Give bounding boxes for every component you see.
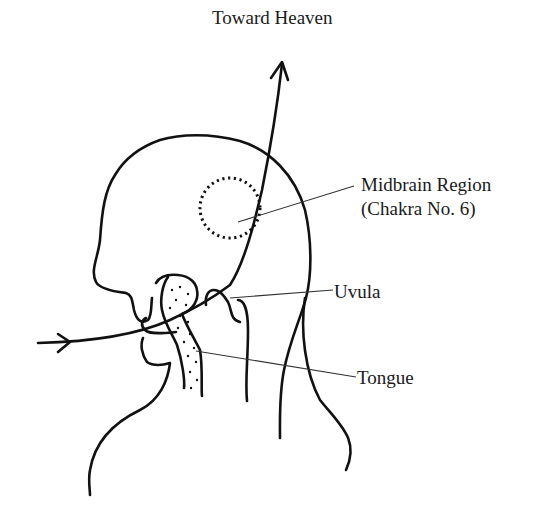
- jaw-outline: [89, 338, 170, 495]
- midbrain-label-line2: (Chakra No. 6): [361, 197, 476, 220]
- midbrain-label-line1: Midbrain Region: [361, 173, 491, 196]
- uvula-label: Uvula: [334, 280, 380, 303]
- uvula-outline: [206, 290, 240, 322]
- uvula-leader-line: [230, 290, 333, 298]
- head-illustration: [0, 0, 558, 529]
- neck-back-outline: [303, 298, 351, 470]
- throat-back-wall: [238, 300, 248, 401]
- midbrain-leader-line: [238, 186, 354, 222]
- diagram-canvas: Toward Heaven Midbrain Region (Chakra No…: [0, 0, 558, 529]
- tongue-label: Tongue: [357, 366, 414, 389]
- tongue-leader-line: [196, 351, 356, 377]
- toward-heaven-label: Toward Heaven: [212, 6, 333, 29]
